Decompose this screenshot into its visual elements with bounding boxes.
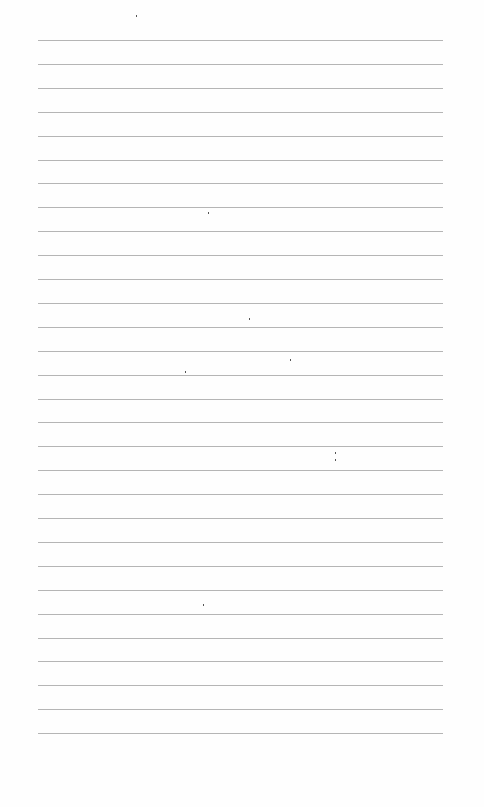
ruled-line: [38, 446, 443, 447]
ruled-line: [38, 327, 443, 328]
ruled-line: [38, 160, 443, 161]
ruled-line: [38, 661, 443, 662]
ruled-line: [38, 638, 443, 639]
ruled-line: [38, 112, 443, 113]
ruled-line: [38, 231, 443, 232]
scan-speck: [290, 359, 291, 361]
ruled-line: [38, 279, 443, 280]
ruled-line: [38, 494, 443, 495]
ruled-line: [38, 422, 443, 423]
scan-speck: [185, 371, 186, 373]
ruled-line: [38, 351, 443, 352]
ruled-line: [38, 255, 443, 256]
scan-speck: [136, 15, 137, 17]
ruled-line: [38, 733, 443, 734]
ruled-paper-page: [0, 0, 484, 807]
ruled-line: [38, 542, 443, 543]
ruled-line: [38, 518, 443, 519]
scan-speck: [208, 212, 209, 214]
ruled-line: [38, 88, 443, 89]
ruled-line: [38, 685, 443, 686]
ruled-line: [38, 303, 443, 304]
scan-speck: [203, 604, 204, 606]
ruled-line: [38, 614, 443, 615]
ruled-line: [38, 40, 443, 41]
ruled-line: [38, 566, 443, 567]
scan-speck: [335, 452, 336, 454]
ruled-line: [38, 590, 443, 591]
ruled-line: [38, 399, 443, 400]
ruled-line: [38, 375, 443, 376]
ruled-line: [38, 64, 443, 65]
ruled-line: [38, 207, 443, 208]
scan-speck: [249, 318, 250, 320]
ruled-line: [38, 136, 443, 137]
ruled-line: [38, 183, 443, 184]
ruled-line: [38, 470, 443, 471]
scan-speck: [335, 459, 336, 461]
ruled-line: [38, 709, 443, 710]
